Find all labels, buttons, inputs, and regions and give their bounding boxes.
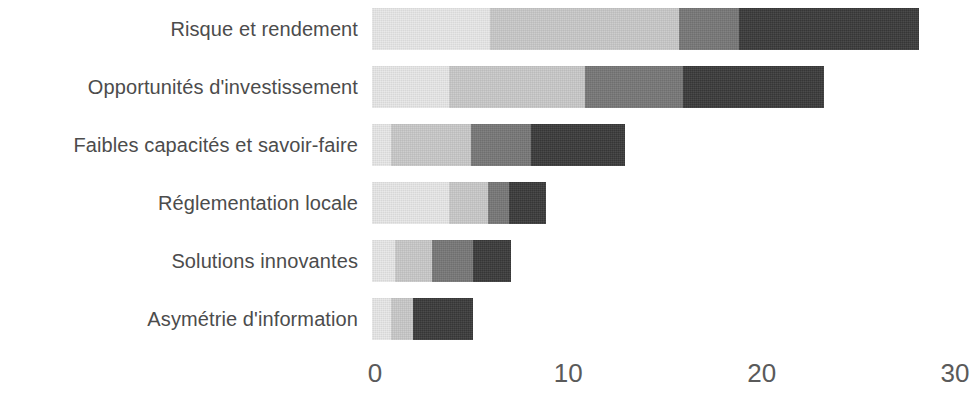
x-axis-tick-label: 10 (554, 358, 583, 389)
chart-row: Réglementation locale (0, 182, 979, 224)
bar-segment (585, 66, 684, 108)
bar-segment (372, 182, 449, 224)
bar-segment (683, 66, 824, 108)
stacked-bar (372, 124, 625, 166)
bar-segment (372, 8, 490, 50)
bar-segment (391, 298, 412, 340)
chart-row: Faibles capacités et savoir-faire (0, 124, 979, 166)
bar-segment (391, 124, 470, 166)
bar-segment (372, 66, 449, 108)
stacked-bar-chart: Risque et rendementOpportunités d'invest… (0, 0, 979, 398)
stacked-bar (372, 8, 919, 50)
bar-segment (395, 240, 432, 282)
bar-segment (372, 124, 391, 166)
stacked-bar (372, 240, 511, 282)
chart-plot-area: Risque et rendementOpportunités d'invest… (0, 0, 979, 352)
category-label: Faibles capacités et savoir-faire (73, 124, 358, 166)
chart-row: Asymétrie d'information (0, 298, 979, 340)
bar-segment (473, 240, 512, 282)
bar-segment (531, 124, 626, 166)
bar-segment (490, 8, 679, 50)
bar-segment (372, 240, 395, 282)
bar-segment (509, 182, 546, 224)
bar-segment (488, 182, 509, 224)
category-label: Risque et rendement (170, 8, 358, 50)
x-axis: 0102030 (0, 352, 979, 398)
x-axis-tick-label: 0 (368, 358, 382, 389)
bar-segment (471, 124, 531, 166)
bar-segment (449, 182, 488, 224)
stacked-bar (372, 182, 546, 224)
category-label: Réglementation locale (158, 182, 358, 224)
x-axis-tick-label: 20 (747, 358, 776, 389)
bar-segment (449, 66, 584, 108)
category-label: Asymétrie d'information (147, 298, 358, 340)
bar-segment (679, 8, 739, 50)
stacked-bar (372, 66, 824, 108)
chart-row: Risque et rendement (0, 8, 979, 50)
bar-segment (432, 240, 473, 282)
bar-segment (739, 8, 919, 50)
category-label: Opportunités d'investissement (88, 66, 358, 108)
chart-row: Solutions innovantes (0, 240, 979, 282)
stacked-bar (372, 298, 473, 340)
chart-row: Opportunités d'investissement (0, 66, 979, 108)
bar-segment (413, 298, 473, 340)
x-axis-tick-label: 30 (941, 358, 970, 389)
category-label: Solutions innovantes (171, 240, 358, 282)
bar-segment (372, 298, 391, 340)
